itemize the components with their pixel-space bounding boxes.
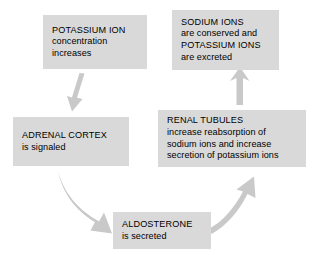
node-sodium-ions: SODIUM IONS are conserved and POTASSIUM … <box>172 10 279 70</box>
node-potassium-line-2: increases <box>52 48 140 60</box>
node-renal-line-2: sodium ions and increase <box>167 139 299 151</box>
node-renal-line-3: secretion of potassium ions <box>167 150 299 162</box>
arrow-aldosterone-to-renal <box>210 177 256 235</box>
node-renal-line-1: increase reabsorption of <box>167 127 299 139</box>
node-renal-heading: RENAL TUBULES <box>167 115 299 127</box>
node-aldosterone-heading: ALDOSTERONE <box>122 219 204 231</box>
node-sodium-line-3: are excreted <box>181 52 272 64</box>
node-adrenal-line-1: is signaled <box>22 142 122 154</box>
node-sodium-heading: SODIUM IONS <box>181 17 272 29</box>
node-renal-tubules: RENAL TUBULES increase reabsorption of s… <box>158 110 306 167</box>
node-aldosterone: ALDOSTERONE is secreted <box>113 212 211 249</box>
node-potassium-ion: POTASSIUM ION concentration increases <box>43 15 147 69</box>
aldosterone-feedback-diagram: POTASSIUM ION concentration increases SO… <box>0 0 317 255</box>
arrow-potassium-to-adrenal <box>67 73 85 112</box>
arrow-renal-to-sodium <box>230 67 250 105</box>
node-aldosterone-line-1: is secreted <box>122 231 204 243</box>
node-adrenal-heading: ADRENAL CORTEX <box>22 130 122 142</box>
node-potassium-heading: POTASSIUM ION <box>52 25 140 37</box>
node-potassium-line-1: concentration <box>52 36 140 48</box>
arrow-adrenal-to-aldosterone <box>58 170 112 234</box>
node-sodium-line-2: POTASSIUM IONS <box>181 40 272 52</box>
node-sodium-line-1: are conserved and <box>181 28 272 40</box>
node-adrenal-cortex: ADRENAL CORTEX is signaled <box>13 117 129 166</box>
